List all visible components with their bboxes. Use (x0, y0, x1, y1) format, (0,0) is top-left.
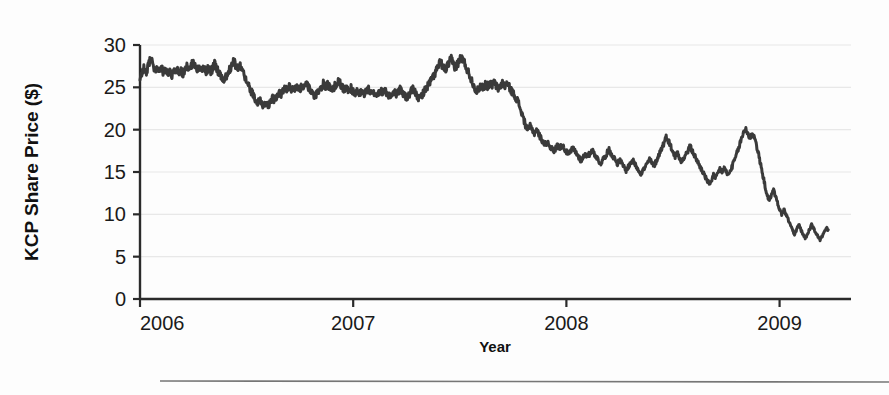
y-tick-label-0: 0 (115, 288, 126, 310)
footer-rule (160, 381, 889, 382)
chart-figure: 051015202530 2006200720082009 KCP Share … (0, 0, 889, 395)
x-tick-label-2008: 2008 (544, 312, 589, 334)
y-tick-label-15: 15 (104, 161, 126, 183)
y-tick-label-20: 20 (104, 119, 126, 141)
y-tick-label-30: 30 (104, 34, 126, 56)
chart-canvas: 051015202530 2006200720082009 KCP Share … (0, 0, 889, 395)
x-tick-label-2007: 2007 (331, 312, 376, 334)
x-axis-label: Year (479, 338, 511, 355)
figure-background (0, 0, 889, 395)
y-tick-label-10: 10 (104, 203, 126, 225)
y-tick-label-5: 5 (115, 246, 126, 268)
x-tick-label-2006: 2006 (140, 312, 185, 334)
y-axis-label: KCP Share Price ($) (21, 83, 42, 261)
x-tick-label-2009: 2009 (757, 312, 802, 334)
y-tick-label-25: 25 (104, 76, 126, 98)
